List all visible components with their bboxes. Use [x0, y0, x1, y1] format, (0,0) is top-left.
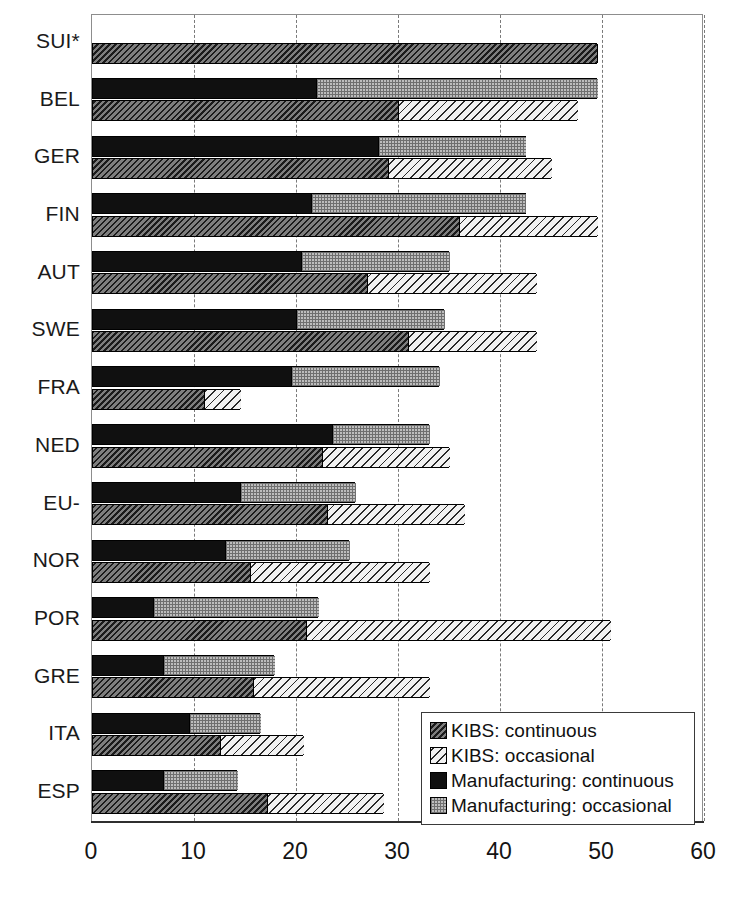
bar-eu-manufacturing-manufacturing-continuous — [93, 483, 241, 502]
bar-swe-kibs-kibs-continuous — [93, 332, 409, 351]
y-axis-label-eu: EU- — [0, 491, 80, 515]
y-axis-label-ger: GER — [0, 144, 80, 168]
bar-nor-manufacturing-manufacturing-occasional — [226, 541, 350, 560]
y-axis-label-bel: BEL — [0, 87, 80, 111]
bar-fra-manufacturing — [92, 366, 439, 387]
bar-aut-kibs — [92, 273, 536, 294]
man-occ-swatch — [430, 797, 447, 814]
bar-ned-kibs — [92, 447, 449, 468]
bar-bel-manufacturing — [92, 78, 597, 99]
bar-aut-kibs-kibs-continuous — [93, 274, 368, 293]
plot-area — [91, 14, 703, 822]
bar-nor-kibs — [92, 562, 429, 583]
x-tick-0: 0 — [61, 838, 121, 865]
legend-label-1: KIBS: occasional — [451, 746, 595, 765]
bar-fra-kibs-kibs-continuous — [93, 390, 205, 409]
gridline-60 — [704, 15, 705, 821]
bar-ned-kibs-kibs-occasional — [323, 448, 451, 467]
x-tick-60: 60 — [673, 838, 733, 865]
bar-nor-kibs-kibs-continuous — [93, 563, 251, 582]
bar-fin-manufacturing-manufacturing-occasional — [312, 194, 526, 213]
y-axis-label-por: POR — [0, 606, 80, 630]
bar-gre-kibs-kibs-continuous — [93, 678, 254, 697]
bar-gre-manufacturing — [92, 655, 274, 676]
bar-por-manufacturing-manufacturing-occasional — [154, 598, 319, 617]
bar-esp-kibs — [92, 793, 383, 814]
bar-swe-kibs — [92, 331, 536, 352]
bar-ita-kibs-kibs-occasional — [221, 736, 305, 755]
bar-swe-manufacturing — [92, 309, 444, 330]
bar-aut-manufacturing — [92, 251, 449, 272]
bar-bel-kibs — [92, 100, 577, 121]
chart-root: SUI*BELGERFINAUTSWEFRANEDEU-NORPORGREITA… — [0, 0, 735, 898]
bar-ita-manufacturing-manufacturing-occasional — [190, 714, 261, 733]
bar-gre-kibs-kibs-occasional — [254, 678, 429, 697]
bar-bel-manufacturing-manufacturing-occasional — [317, 79, 598, 98]
legend-label-2: Manufacturing: continuous — [451, 771, 674, 790]
bar-esp-manufacturing-manufacturing-continuous — [93, 771, 164, 790]
bar-fin-kibs-kibs-occasional — [460, 217, 598, 236]
legend-item-3[interactable]: Manufacturing: occasional — [430, 793, 688, 818]
kibs-occ-swatch — [430, 747, 447, 764]
legend-item-1[interactable]: KIBS: occasional — [430, 743, 688, 768]
legend-item-2[interactable]: Manufacturing: continuous — [430, 768, 688, 793]
bar-ger-kibs — [92, 158, 551, 179]
bar-sui-kibs — [92, 43, 597, 64]
bar-fra-manufacturing-manufacturing-continuous — [93, 367, 292, 386]
bar-eu-manufacturing-manufacturing-occasional — [241, 483, 356, 502]
bar-ger-manufacturing — [92, 136, 526, 157]
bar-ger-kibs-kibs-continuous — [93, 159, 389, 178]
legend-label-3: Manufacturing: occasional — [451, 796, 672, 815]
bar-ita-manufacturing-manufacturing-continuous — [93, 714, 190, 733]
bar-eu-kibs-kibs-continuous — [93, 505, 328, 524]
x-tick-10: 10 — [163, 838, 223, 865]
y-axis-label-sui: SUI* — [0, 29, 80, 53]
bar-gre-manufacturing-manufacturing-continuous — [93, 656, 164, 675]
bar-ita-kibs-kibs-continuous — [93, 736, 221, 755]
kibs-cont-swatch — [430, 722, 447, 739]
x-tick-40: 40 — [469, 838, 529, 865]
bar-ned-manufacturing — [92, 424, 429, 445]
bar-esp-kibs-kibs-occasional — [268, 794, 383, 813]
y-axis-label-aut: AUT — [0, 260, 80, 284]
bar-fra-kibs-kibs-occasional — [205, 390, 241, 409]
y-axis-label-ita: ITA — [0, 721, 80, 745]
bar-fin-manufacturing-manufacturing-continuous — [93, 194, 312, 213]
y-axis-label-fra: FRA — [0, 375, 80, 399]
y-axis-label-esp: ESP — [0, 779, 80, 803]
gridline-50 — [602, 15, 603, 821]
bar-esp-kibs-kibs-continuous — [93, 794, 268, 813]
y-axis-label-fin: FIN — [0, 202, 80, 226]
bar-fin-kibs — [92, 216, 597, 237]
x-tick-50: 50 — [571, 838, 631, 865]
bar-nor-manufacturing — [92, 540, 349, 561]
bar-esp-manufacturing — [92, 770, 237, 791]
legend-item-0[interactable]: KIBS: continuous — [430, 718, 688, 743]
bar-por-manufacturing-manufacturing-continuous — [93, 598, 154, 617]
bar-aut-manufacturing-manufacturing-occasional — [302, 252, 450, 271]
x-tick-30: 30 — [367, 838, 427, 865]
bar-por-kibs-kibs-occasional — [307, 621, 611, 640]
bar-aut-manufacturing-manufacturing-continuous — [93, 252, 302, 271]
y-axis-label-swe: SWE — [0, 317, 80, 341]
bar-eu-manufacturing — [92, 482, 355, 503]
bar-bel-kibs-kibs-continuous — [93, 101, 399, 120]
bar-eu-kibs — [92, 504, 464, 525]
bar-swe-manufacturing-manufacturing-occasional — [297, 310, 445, 329]
bar-bel-manufacturing-manufacturing-continuous — [93, 79, 317, 98]
bar-gre-manufacturing-manufacturing-occasional — [164, 656, 274, 675]
bar-swe-manufacturing-manufacturing-continuous — [93, 310, 297, 329]
bar-fra-manufacturing-manufacturing-occasional — [292, 367, 440, 386]
man-cont-swatch — [430, 772, 447, 789]
y-axis-label-nor: NOR — [0, 548, 80, 572]
bar-eu-kibs-kibs-occasional — [328, 505, 466, 524]
bar-ned-manufacturing-manufacturing-occasional — [333, 425, 430, 444]
bar-bel-kibs-kibs-occasional — [399, 101, 578, 120]
bar-ned-kibs-kibs-continuous — [93, 448, 323, 467]
bar-fin-kibs-kibs-continuous — [93, 217, 460, 236]
bar-ned-manufacturing-manufacturing-continuous — [93, 425, 333, 444]
bar-esp-manufacturing-manufacturing-occasional — [164, 771, 237, 790]
bar-sui-kibs-kibs-continuous — [93, 44, 598, 63]
bar-por-kibs-kibs-continuous — [93, 621, 307, 640]
bar-ger-manufacturing-manufacturing-continuous — [93, 137, 379, 156]
